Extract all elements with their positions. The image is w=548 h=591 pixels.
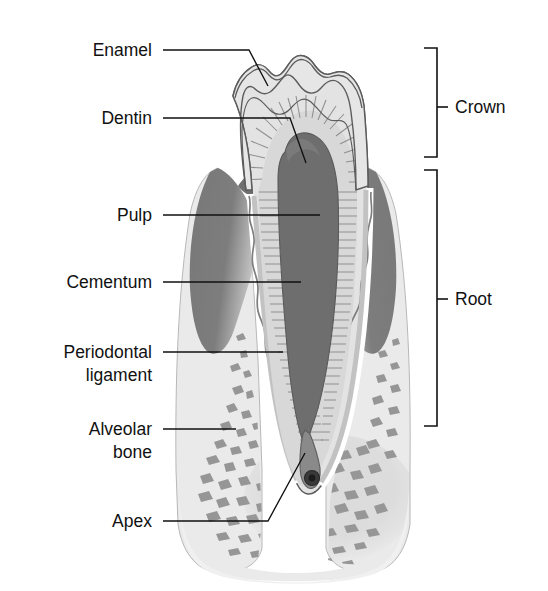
label-pulp: Pulp <box>117 205 152 225</box>
label-bone: bone <box>113 442 152 462</box>
label-ligament: ligament <box>86 365 152 385</box>
tooth-anatomy-figure: Enamel Dentin Pulp Cementum Periodontal … <box>0 0 548 591</box>
label-root: Root <box>455 289 492 309</box>
label-periodontal: Periodontal <box>63 342 152 362</box>
label-apex: Apex <box>112 511 152 531</box>
tooth-diagram-svg: Enamel Dentin Pulp Cementum Periodontal … <box>0 0 548 591</box>
label-crown: Crown <box>455 97 506 117</box>
label-cementum: Cementum <box>66 272 152 292</box>
root-bracket <box>424 170 437 426</box>
apical-foramen-center <box>309 475 316 482</box>
left-labels-group: Enamel Dentin Pulp Cementum Periodontal … <box>63 40 152 531</box>
label-enamel: Enamel <box>93 40 152 60</box>
crown-bracket <box>424 48 437 157</box>
brackets-group <box>424 48 448 426</box>
right-labels-group: Crown Root <box>455 97 506 309</box>
label-dentin: Dentin <box>101 108 152 128</box>
label-alveolar: Alveolar <box>89 419 152 439</box>
